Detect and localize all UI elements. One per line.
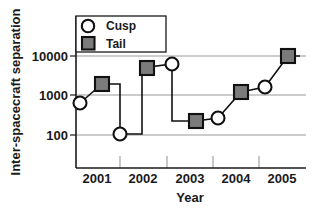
- tail-point-2001: [95, 77, 109, 91]
- x-tick-label-2005: 2005: [268, 171, 297, 186]
- legend-label-cusp: Cusp: [106, 19, 136, 33]
- legend-cusp-icon: [82, 20, 94, 32]
- x-tick-label-2003: 2003: [176, 171, 205, 186]
- cusp-point-2003: [212, 112, 225, 125]
- cusp-point-2004: [259, 81, 272, 94]
- tail-point-2003: [189, 114, 203, 128]
- chart-figure: Cusp Tail 10000 1000 100 2001 2002 2003 …: [0, 0, 315, 221]
- legend-label-tail: Tail: [106, 37, 126, 51]
- cusp-point-2002: [166, 58, 179, 71]
- cusp-point-2001: [114, 128, 127, 141]
- y-tick-labels: 10000 1000 100: [32, 49, 68, 143]
- chart-legend: Cusp Tail: [76, 16, 166, 52]
- x-tick-label-2002: 2002: [129, 171, 158, 186]
- legend-tail-icon: [82, 37, 95, 50]
- x-axis-title: Year: [176, 190, 203, 205]
- x-tick-label-2001: 2001: [83, 171, 112, 186]
- y-axis-title: Inter-spacecraft separation: [8, 9, 23, 176]
- y-tick-label-1000: 1000: [39, 88, 68, 103]
- x-tick-label-2004: 2004: [222, 171, 252, 186]
- tail-point-2004: [234, 85, 248, 99]
- tail-point-2002: [140, 61, 154, 75]
- chart-canvas: Cusp Tail 10000 1000 100 2001 2002 2003 …: [0, 0, 315, 221]
- tail-point-2005: [281, 49, 295, 63]
- x-tick-labels: 2001 2002 2003 2004 2005: [83, 171, 297, 186]
- y-ticks: [70, 56, 76, 135]
- cusp-point-2000: [74, 97, 87, 110]
- y-tick-label-10000: 10000: [32, 49, 68, 64]
- y-tick-label-100: 100: [46, 128, 68, 143]
